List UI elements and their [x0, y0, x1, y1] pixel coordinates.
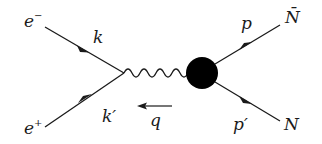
label-q: q — [150, 110, 161, 130]
label-e-plus: e — [24, 118, 34, 138]
electron-line — [45, 27, 124, 73]
label-e-minus-sup: − — [34, 10, 42, 21]
label-n: N — [283, 114, 300, 134]
photon-momentum-arrow — [137, 103, 172, 110]
positron-arrow-icon — [78, 94, 92, 103]
label-p: p — [241, 13, 252, 33]
feynman-diagram: e − k e + k′ q p N̄ p′ N — [0, 0, 322, 144]
hadronic-vertex-blob — [186, 57, 218, 89]
label-k: k — [93, 27, 103, 47]
label-e-plus-sup: + — [34, 117, 42, 128]
label-e-minus: e — [24, 11, 34, 31]
label-k-prime: k′ — [102, 106, 116, 126]
photon-wavy-line — [124, 69, 188, 77]
label-p-prime: p′ — [233, 114, 248, 134]
label-n-bar: N̄ — [284, 6, 301, 27]
